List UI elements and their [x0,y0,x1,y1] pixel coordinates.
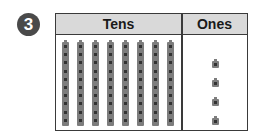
ten-rod-block [92,42,99,126]
table-header: Tens Ones [56,14,247,35]
ten-rod-block [152,42,159,126]
problem-number-badge: 3 [17,13,40,36]
header-tens: Tens [56,14,181,34]
ten-rod-block [122,42,129,126]
place-value-table: Tens Ones [55,13,248,131]
ten-rod-block [62,42,69,126]
ten-rod-block [77,42,84,126]
ten-rod-block [167,42,174,126]
ten-rod-block [137,42,144,126]
tens-rods-area [62,42,178,126]
unit-cube-block [212,61,219,68]
header-ones: Ones [182,14,247,34]
unit-cube-block [212,80,219,87]
column-divider [181,14,183,130]
unit-cube-block [212,99,219,106]
ten-rod-block [107,42,114,126]
unit-cube-block [212,118,219,125]
